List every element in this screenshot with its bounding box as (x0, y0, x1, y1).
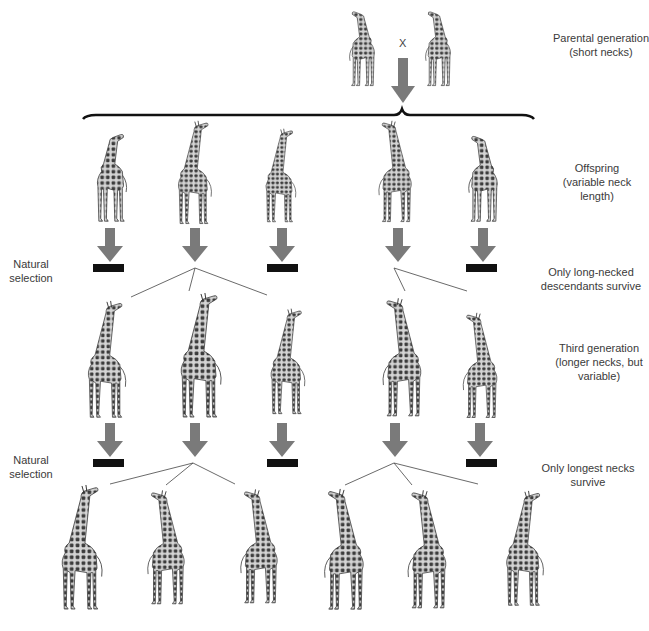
final-gen-giraffe-2 (148, 490, 184, 603)
parent-giraffe-right (426, 12, 451, 86)
arrow-down-icon (269, 423, 295, 457)
offspring-giraffe-4 (379, 121, 411, 222)
arrow-down-icon (382, 423, 408, 457)
final-gen-giraffe-1 (62, 485, 102, 609)
offspring-giraffe-1 (97, 135, 126, 222)
arrow-down-icon (182, 228, 208, 262)
selection-arrows-row-1 (97, 228, 496, 262)
arrow-down-icon (182, 423, 208, 457)
eliminated-bars-row-1 (93, 264, 497, 272)
offspring-giraffe-3 (266, 129, 296, 222)
third-gen-giraffe-5 (463, 313, 497, 418)
final-gen-giraffe-3 (241, 489, 277, 602)
eliminated-bar (267, 459, 298, 467)
arrow-down-icon (467, 423, 493, 457)
third-gen-giraffe-1 (88, 301, 125, 417)
selection-arrows-row-2 (97, 423, 493, 457)
third-gen-giraffe-3 (271, 309, 305, 414)
eliminated-bars-row-2 (93, 459, 497, 467)
offspring-giraffe-5 (469, 136, 498, 221)
label-natural-selection-1: Natural selection (0, 257, 62, 285)
arrow-down-icon (391, 58, 415, 103)
label-parental-generation: Parental generation (short necks) (553, 31, 649, 59)
final-gen-giraffe-4 (325, 489, 364, 609)
arrow-down-icon (97, 423, 123, 457)
eliminated-bar (466, 459, 497, 467)
arrow-down-icon (269, 228, 295, 262)
parent-giraffe-left (350, 12, 375, 86)
eliminated-bar (267, 264, 298, 272)
branch-lines-row-1 (131, 268, 467, 297)
label-third-generation: Third generation (longer necks, but vari… (549, 341, 649, 383)
diagram-canvas (0, 0, 649, 631)
label-only-long-necked-survive: Only long-necked descendants survive (533, 265, 649, 293)
arrow-down-icon (97, 228, 123, 262)
cross-symbol: X (399, 37, 406, 49)
eliminated-bar (466, 264, 497, 272)
label-natural-selection-2: Natural selection (0, 453, 62, 481)
label-only-longest-necks-survive: Only longest necks survive (530, 461, 646, 489)
arrow-down-icon (470, 228, 496, 262)
eliminated-bar (93, 459, 124, 467)
arrow-down-icon (385, 228, 411, 262)
final-gen-giraffe-5 (408, 490, 446, 608)
offspring-giraffe-2 (178, 121, 211, 224)
label-offspring: Offspring (variable neck length) (549, 161, 645, 203)
eliminated-bar (93, 264, 124, 272)
third-gen-giraffe-2 (181, 293, 221, 417)
final-gen-giraffe-6 (507, 491, 544, 605)
third-gen-giraffe-4 (383, 298, 421, 416)
offspring-brace (83, 109, 534, 119)
